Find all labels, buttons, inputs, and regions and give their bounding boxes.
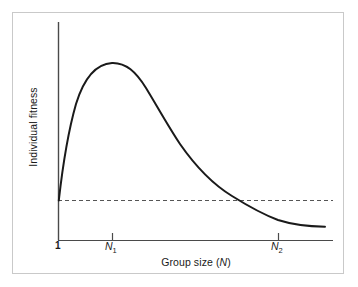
y-axis-label: Individual fitness <box>27 72 41 182</box>
x-tick-label-n2-variable: N <box>271 240 279 252</box>
x-axis-label-suffix: ) <box>227 256 231 268</box>
fitness-curve <box>59 63 325 227</box>
x-axis-label-prefix: Group size ( <box>161 256 219 268</box>
chart-plot <box>0 0 358 287</box>
x-axis-label: Group size (N) <box>58 256 334 268</box>
x-tick-label-n1-subscript: 1 <box>113 246 117 255</box>
x-tick-label-origin: 1 <box>55 240 61 251</box>
x-tick-label-n1-variable: N <box>105 240 113 252</box>
figure-container: Individual fitness Group size (N) 1 N1 N… <box>0 0 358 287</box>
x-tick-label-n1: N1 <box>105 240 117 255</box>
x-tick-label-n2-subscript: 2 <box>279 246 283 255</box>
x-tick-label-n2: N2 <box>271 240 283 255</box>
